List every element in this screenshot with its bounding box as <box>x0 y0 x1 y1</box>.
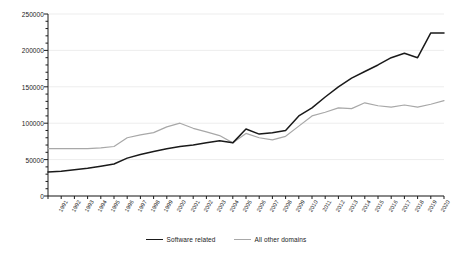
x-axis-tick-label: 1996 <box>123 199 135 213</box>
legend-label: All other domains <box>255 236 307 243</box>
x-axis-tick-label: 2019 <box>426 199 438 213</box>
x-axis-tick-labels: 1991199219931994199519961997199819992000… <box>0 199 452 233</box>
x-axis-tick-label: 2016 <box>387 199 399 213</box>
x-axis-tick-label: 2004 <box>228 199 240 213</box>
legend-swatch-icon <box>234 239 251 240</box>
legend-swatch-icon <box>146 239 163 240</box>
y-axis-tick-label: 250000 <box>22 11 44 18</box>
x-axis-tick-label: 1995 <box>110 199 122 213</box>
x-axis-tick-label: 2002 <box>202 199 214 213</box>
x-axis-tick-label: 2018 <box>413 199 425 213</box>
x-axis-tick-label: 1999 <box>162 199 174 213</box>
x-axis-tick-label: 1998 <box>149 199 161 213</box>
x-axis-tick-label: 2009 <box>294 199 306 213</box>
x-axis-tick-label: 2006 <box>255 199 267 213</box>
y-axis-tick-label: 200000 <box>22 47 44 54</box>
y-axis-tick-label: 150000 <box>22 83 44 90</box>
x-axis-tick-label: 2020 <box>440 199 452 213</box>
x-axis-tick-label: 2001 <box>189 199 201 213</box>
chart-legend: Software relatedAll other domains <box>0 236 452 243</box>
x-axis-tick-label: 1997 <box>136 199 148 213</box>
x-axis-tick-label: 2003 <box>215 199 227 213</box>
legend-entry[interactable]: Software related <box>146 236 216 243</box>
series-line-software-related <box>48 33 444 172</box>
x-axis-tick-label: 2014 <box>360 199 372 213</box>
legend-entry[interactable]: All other domains <box>234 236 307 243</box>
x-axis-tick-label: 2008 <box>281 199 293 213</box>
gridlines <box>48 14 444 196</box>
x-axis-tick-label: 2013 <box>347 199 359 213</box>
y-axis-tick-label: 100000 <box>22 120 44 127</box>
x-axis-tick-label: 1993 <box>83 199 95 213</box>
x-axis-tick-label: 2000 <box>176 199 188 213</box>
x-axis-tick-label: 2007 <box>268 199 280 213</box>
x-axis-tick-label: 1994 <box>96 199 108 213</box>
x-axis-tick-label: 2017 <box>400 199 412 213</box>
series-line-all-other-domains <box>48 101 444 149</box>
x-axis-tick-label: 2010 <box>308 199 320 213</box>
y-axis-major-ticks <box>44 14 48 196</box>
x-axis-tick-label: 2011 <box>321 199 332 213</box>
x-axis-tick-label: 1991 <box>57 199 69 213</box>
x-axis-tick-label: 1992 <box>70 199 82 213</box>
data-series <box>48 33 444 172</box>
legend-label: Software related <box>167 236 216 243</box>
x-axis-tick-label: 2005 <box>242 199 254 213</box>
y-axis-tick-label: 50000 <box>25 156 44 163</box>
chart-container: 050000100000150000200000250000 199119921… <box>0 0 452 254</box>
x-axis-tick-label: 2012 <box>334 199 346 213</box>
x-axis-tick-label: 2015 <box>374 199 386 213</box>
